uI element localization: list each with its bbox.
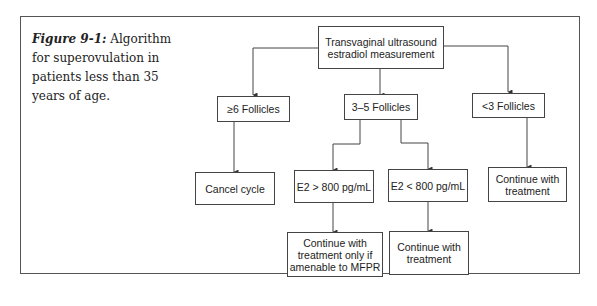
node-lt3-label: <3 Follicles <box>482 100 535 112</box>
node-continue-lt3: Continue with treatment <box>488 167 567 202</box>
node-continue-lt3-label: Continue with treatment <box>489 173 566 197</box>
node-e2-high: E2 > 800 pg/mL <box>294 170 374 203</box>
node-3-5-label: 3–5 Follicles <box>352 101 410 113</box>
node-3-5-follicles: 3–5 Follicles <box>344 94 418 120</box>
node-e2-low-label: E2 < 800 pg/mL <box>391 180 465 192</box>
node-ge6-follicles: ≥6 Follicles <box>217 96 290 122</box>
node-continue-low: Continue with treatment <box>389 231 469 275</box>
node-e2-high-label: E2 > 800 pg/mL <box>297 181 371 193</box>
node-continue-low-label: Continue with treatment <box>390 241 468 265</box>
node-cancel-label: Cancel cycle <box>205 183 265 195</box>
node-continue-high: Continue with treatment only if amenable… <box>287 232 383 277</box>
node-cancel-cycle: Cancel cycle <box>195 172 275 205</box>
node-continue-high-label: Continue with treatment only if amenable… <box>288 237 382 273</box>
node-root-label: Transvaginal ultrasound estradiol measur… <box>319 36 443 60</box>
node-root: Transvaginal ultrasound estradiol measur… <box>318 26 444 69</box>
node-e2-low: E2 < 800 pg/mL <box>388 169 468 202</box>
node-ge6-label: ≥6 Follicles <box>227 103 279 115</box>
node-lt3-follicles: <3 Follicles <box>472 93 545 118</box>
